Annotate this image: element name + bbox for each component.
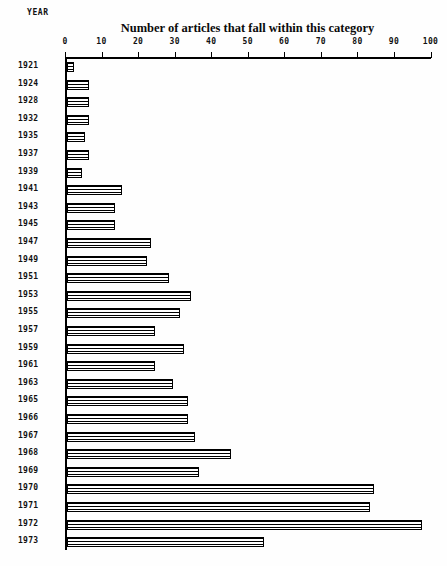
bar-row: 1972 xyxy=(0,519,447,537)
bar-row: 1953 xyxy=(0,290,447,308)
bar-chart: YEAR Number of articles that fall within… xyxy=(0,0,447,566)
bar-category-label: 1957 xyxy=(18,325,58,334)
bar-category-label: 1961 xyxy=(18,360,58,369)
bar-category-label: 1924 xyxy=(18,79,58,88)
bar-row: 1968 xyxy=(0,448,447,466)
bar-category-label: 1965 xyxy=(18,395,58,404)
bar-category-label: 1955 xyxy=(18,307,58,316)
bar-category-label: 1972 xyxy=(18,519,58,528)
bar-category-label: 1953 xyxy=(18,290,58,299)
bar xyxy=(67,97,89,107)
bar xyxy=(67,220,115,230)
bar xyxy=(67,62,74,72)
bar-row: 1967 xyxy=(0,431,447,449)
bar-category-label: 1939 xyxy=(18,167,58,176)
bar-row: 1932 xyxy=(0,114,447,132)
bar-row: 1971 xyxy=(0,501,447,519)
bar-row: 1943 xyxy=(0,202,447,220)
bar xyxy=(67,168,82,178)
bar-row: 1945 xyxy=(0,219,447,237)
bar xyxy=(67,291,191,301)
bar-category-label: 1947 xyxy=(18,237,58,246)
bar-row: 1928 xyxy=(0,96,447,114)
bar-row: 1939 xyxy=(0,167,447,185)
bar-category-label: 1928 xyxy=(18,96,58,105)
bar-row: 1959 xyxy=(0,343,447,361)
bar-category-label: 1941 xyxy=(18,184,58,193)
bar-row: 1921 xyxy=(0,61,447,79)
bar-row: 1955 xyxy=(0,307,447,325)
bar-row: 1970 xyxy=(0,483,447,501)
bar-category-label: 1969 xyxy=(18,466,58,475)
bar xyxy=(67,432,195,442)
bar-row: 1963 xyxy=(0,378,447,396)
bar-row: 1951 xyxy=(0,272,447,290)
bar xyxy=(67,344,184,354)
bar-category-label: 1970 xyxy=(18,483,58,492)
bars-container: 1921192419281932193519371939194119431945… xyxy=(0,0,447,566)
bar-category-label: 1967 xyxy=(18,431,58,440)
bar xyxy=(67,132,85,142)
bar-category-label: 1943 xyxy=(18,202,58,211)
bar xyxy=(67,361,155,371)
bar xyxy=(67,484,374,494)
bar xyxy=(67,326,155,336)
bar xyxy=(67,537,264,547)
bar-category-label: 1921 xyxy=(18,61,58,70)
bar-row: 1966 xyxy=(0,413,447,431)
bar xyxy=(67,273,169,283)
bar-row: 1947 xyxy=(0,237,447,255)
bar-row: 1937 xyxy=(0,149,447,167)
bar-category-label: 1959 xyxy=(18,343,58,352)
bar xyxy=(67,150,89,160)
bar-category-label: 1968 xyxy=(18,448,58,457)
bar-row: 1941 xyxy=(0,184,447,202)
bar-row: 1935 xyxy=(0,131,447,149)
bar xyxy=(67,185,122,195)
bar-category-label: 1935 xyxy=(18,131,58,140)
bar xyxy=(67,308,180,318)
bar-category-label: 1949 xyxy=(18,255,58,264)
bar-category-label: 1963 xyxy=(18,378,58,387)
bar xyxy=(67,449,231,459)
bar xyxy=(67,502,370,512)
bar-category-label: 1966 xyxy=(18,413,58,422)
bar xyxy=(67,520,422,530)
bar-category-label: 1951 xyxy=(18,272,58,281)
bar xyxy=(67,115,89,125)
bar xyxy=(67,238,151,248)
bar-row: 1924 xyxy=(0,79,447,97)
bar xyxy=(67,256,147,266)
bar xyxy=(67,396,188,406)
bar-category-label: 1971 xyxy=(18,501,58,510)
bar-row: 1965 xyxy=(0,395,447,413)
bar-row: 1961 xyxy=(0,360,447,378)
bar-category-label: 1973 xyxy=(18,536,58,545)
bar xyxy=(67,467,199,477)
bar-row: 1949 xyxy=(0,255,447,273)
bar xyxy=(67,379,173,389)
bar xyxy=(67,203,115,213)
bar xyxy=(67,80,89,90)
bar-row: 1969 xyxy=(0,466,447,484)
bar-row: 1957 xyxy=(0,325,447,343)
bar-category-label: 1932 xyxy=(18,114,58,123)
bar-category-label: 1945 xyxy=(18,219,58,228)
bar-category-label: 1937 xyxy=(18,149,58,158)
bar xyxy=(67,414,188,424)
bar-row: 1973 xyxy=(0,536,447,554)
